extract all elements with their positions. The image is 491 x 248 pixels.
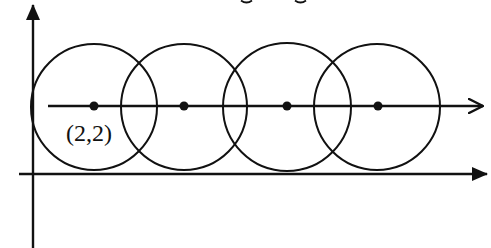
center-point-2 — [180, 102, 189, 111]
center-point-4 — [374, 102, 383, 111]
center-point-1 — [90, 102, 99, 111]
cropped-text-fragments — [241, 1, 306, 3]
center-point-3 — [283, 102, 292, 111]
first-center-label: (2,2) — [66, 119, 112, 147]
